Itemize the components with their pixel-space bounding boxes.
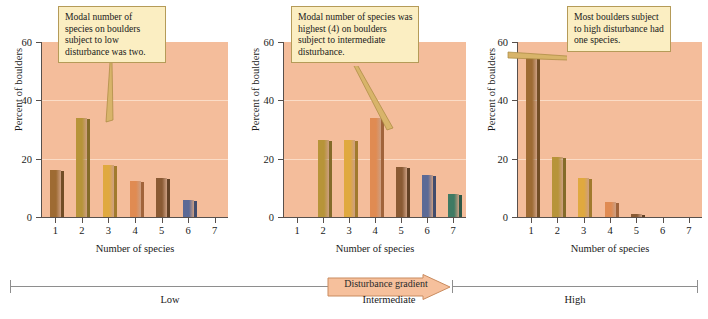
- gradient-tick-end: [697, 280, 698, 293]
- chart-panel-high: Percent of boulders 02040601234567 Numbe…: [472, 0, 708, 268]
- gradient-tick-start: [10, 280, 11, 293]
- gradient-tick-mid-right: [452, 280, 453, 293]
- chart-panel-low: Percent of boulders 02040601234567 Numbe…: [0, 0, 236, 268]
- gradient-label-low: Low: [110, 294, 230, 305]
- gradient-arrow-label: Disturbance gradient: [334, 278, 438, 289]
- chart-panel-intermediate: Percent of boulders 02040601234567 Numbe…: [236, 0, 472, 268]
- gradient-label-intermediate: Intermediate: [329, 294, 449, 305]
- disturbance-gradient-strip: Disturbance gradient Low Intermediate Hi…: [0, 268, 708, 319]
- annotation-low: Modal number of species on boulders subj…: [58, 6, 166, 63]
- annotation-high: Most boulders subject to high disturbanc…: [567, 6, 671, 52]
- gradient-label-high: High: [515, 294, 635, 305]
- gradient-line-high: [452, 286, 698, 287]
- gradient-line-low: [10, 286, 330, 287]
- chart-panels: Percent of boulders 02040601234567 Numbe…: [0, 0, 708, 268]
- annotation-intermediate: Modal number of species was highest (4) …: [291, 6, 419, 63]
